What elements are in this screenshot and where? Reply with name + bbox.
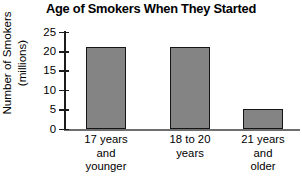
x-category-label-0-line-3: younger xyxy=(64,160,148,174)
x-category-label-2-line-2: and xyxy=(221,147,302,161)
x-category-label-2-line-3: older xyxy=(221,160,302,174)
y-tick-label-15: 15 xyxy=(36,65,56,76)
bar-21-years-and-older[interactable] xyxy=(243,109,283,129)
y-tick-5 xyxy=(59,109,69,111)
y-tick-0 xyxy=(59,129,69,131)
x-category-label-2-line-1: 21 years xyxy=(221,133,302,147)
x-category-label-1: 18 to 20 years xyxy=(148,133,232,160)
plot-area: 25 20 15 10 5 0 17 years and younger 18 … xyxy=(0,0,302,180)
y-tick-15 xyxy=(59,70,69,72)
y-tick-label-0: 0 xyxy=(36,124,56,135)
bar-18-to-20-years[interactable] xyxy=(170,47,211,129)
y-tick-label-20: 20 xyxy=(36,46,56,57)
bar-17-years-and-younger[interactable] xyxy=(86,47,126,129)
y-tick-25 xyxy=(59,32,69,34)
x-category-label-1-line-2: years xyxy=(148,147,232,161)
x-category-label-0-line-2: and xyxy=(64,147,148,161)
y-tick-label-10: 10 xyxy=(36,85,56,96)
y-tick-label-5: 5 xyxy=(36,104,56,115)
x-category-label-0-line-1: 17 years xyxy=(64,133,148,147)
y-tick-20 xyxy=(59,51,69,53)
x-category-label-0: 17 years and younger xyxy=(64,133,148,174)
y-tick-10 xyxy=(59,90,69,92)
x-category-label-1-line-1: 18 to 20 xyxy=(148,133,232,147)
y-tick-label-25: 25 xyxy=(36,27,56,38)
x-category-label-2: 21 years and older xyxy=(221,133,302,174)
bar-chart: Age of Smokers When They Started Number … xyxy=(0,0,302,180)
y-axis-line xyxy=(64,31,66,130)
x-axis-line xyxy=(64,129,300,131)
